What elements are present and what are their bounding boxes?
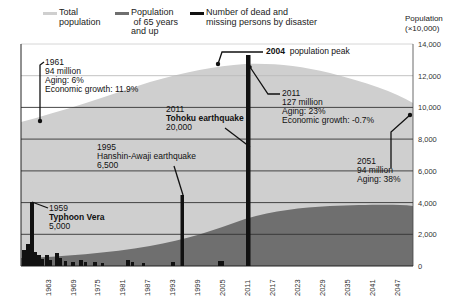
svg-text:2011: 2011 xyxy=(243,280,252,296)
svg-text:2023: 2023 xyxy=(293,279,302,296)
svg-text:1981: 1981 xyxy=(118,279,127,296)
svg-text:1987: 1987 xyxy=(143,279,152,296)
svg-text:2041: 2041 xyxy=(368,279,377,296)
svg-text:1969: 1969 xyxy=(69,279,78,296)
svg-text:1975: 1975 xyxy=(93,279,102,296)
svg-text:2017: 2017 xyxy=(268,279,277,296)
svg-text:4,000: 4,000 xyxy=(418,199,437,208)
svg-text:2005: 2005 xyxy=(218,279,227,296)
annotation-tohoku-earthquake: 2011 Tohoku earthquake 20,000 xyxy=(166,105,244,132)
svg-text:1993: 1993 xyxy=(168,279,177,296)
bar-hanshin-awaji xyxy=(181,195,185,266)
annotation-2004-peak: 2004 population peak xyxy=(266,47,350,56)
svg-text:0: 0 xyxy=(418,262,422,271)
svg-text:2047: 2047 xyxy=(393,279,402,296)
svg-text:6,000: 6,000 xyxy=(418,167,437,176)
svg-text:1999: 1999 xyxy=(193,279,202,296)
chart-plot: 14,000 12,000 10,000 8,000 6,000 4,000 2… xyxy=(0,0,459,302)
svg-text:10,000: 10,000 xyxy=(418,103,441,112)
svg-text:2,000: 2,000 xyxy=(418,230,437,239)
svg-text:14,000: 14,000 xyxy=(418,40,441,49)
annotation-2051: 2051 94 million Aging: 38% xyxy=(357,157,400,184)
svg-text:2035: 2035 xyxy=(343,279,352,296)
svg-text:1963: 1963 xyxy=(44,279,53,296)
bar-tohoku xyxy=(246,55,251,266)
y-axis-ticks: 14,000 12,000 10,000 8,000 6,000 4,000 2… xyxy=(418,40,441,271)
svg-text:12,000: 12,000 xyxy=(418,72,441,81)
annotation-1961: 1961 94 million Aging: 6% Economic growt… xyxy=(45,58,138,94)
annotation-2011: 2011 127 million Aging: 23% Economic gro… xyxy=(282,89,374,125)
svg-text:2029: 2029 xyxy=(318,279,327,296)
bar-typhoon-vera xyxy=(30,202,34,266)
annotation-hanshin-awaji-earthquake: 1995 Hanshin-Awaji earthquake 6,500 xyxy=(97,143,196,170)
x-axis-ticks: 1963 1969 1975 1981 1987 1993 1999 2005 … xyxy=(44,279,402,296)
svg-text:8,000: 8,000 xyxy=(418,135,437,144)
annotation-typhoon-vera: 1959 Typhoon Vera 5,000 xyxy=(49,204,105,231)
